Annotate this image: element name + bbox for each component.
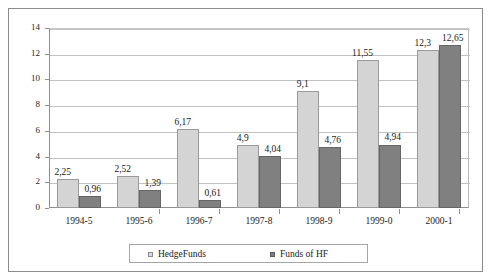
x-axis-tick-label-1998-9: 1998-9 <box>289 216 349 226</box>
x-axis-tick-label-2000-1: 2000-1 <box>409 216 469 226</box>
y-axis-tick-mark <box>45 28 49 29</box>
bar-value-label: 1,39 <box>144 178 161 188</box>
bar-1999-0-funds-of-hf <box>379 145 401 209</box>
bar-1998-9-hedgefunds <box>297 91 319 208</box>
bar-value-label: 4,04 <box>264 144 281 154</box>
x-axis-tick-label-1995-6: 1995-6 <box>109 216 169 226</box>
bar-1995-6-hedgefunds <box>117 176 139 208</box>
y-axis-tick-mark <box>45 208 49 209</box>
bar-value-label: 0,61 <box>204 188 221 198</box>
bar-1997-8-hedgefunds <box>237 145 259 208</box>
y-axis-tick-label: 6 <box>4 126 40 135</box>
y-axis-tick-mark <box>45 54 49 55</box>
y-axis-tick-label: 12 <box>4 49 40 58</box>
bar-1996-7-hedgefunds <box>177 129 199 208</box>
x-axis-tick-mark <box>459 209 460 214</box>
y-axis-tick-label: 2 <box>4 177 40 186</box>
y-axis-tick-label: 4 <box>4 152 40 161</box>
y-axis-tick-mark <box>45 131 49 132</box>
gridline <box>50 29 470 30</box>
gridline <box>50 80 470 81</box>
bar-1995-6-funds-of-hf <box>139 190 161 208</box>
y-axis-tick-mark <box>45 157 49 158</box>
bar-value-label: 4,9 <box>237 133 249 143</box>
chart-figure: 02468101214 2,250,962,521,396,170,614,94… <box>0 0 497 279</box>
gridline <box>50 55 470 56</box>
y-axis-tick-label: 14 <box>4 23 40 32</box>
bar-value-label: 2,25 <box>54 167 71 177</box>
y-axis-tick-label: 0 <box>4 203 40 212</box>
legend-entry-funds-of-hf[interactable]: Funds of HF <box>270 248 328 261</box>
x-axis-tick-label-1997-8: 1997-8 <box>229 216 289 226</box>
bar-1998-9-funds-of-hf <box>319 147 341 208</box>
bar-value-label: 6,17 <box>174 117 191 127</box>
bar-2000-1-hedgefunds <box>417 50 439 208</box>
y-axis-tick-label: 8 <box>4 100 40 109</box>
y-axis-tick-label: 10 <box>4 74 40 83</box>
x-axis-tick-label-1999-0: 1999-0 <box>349 216 409 226</box>
legend-entry-hedgefunds[interactable]: HedgeFunds <box>148 248 206 261</box>
bar-value-label: 4,94 <box>384 132 401 142</box>
bar-value-label: 12,3 <box>414 38 431 48</box>
x-axis-tick-mark <box>219 209 220 214</box>
y-axis-tick-mark <box>45 79 49 80</box>
y-axis-tick-mark <box>45 182 49 183</box>
bar-1994-5-hedgefunds <box>57 179 79 208</box>
legend-label: Funds of HF <box>280 249 328 260</box>
bar-value-label: 12,65 <box>442 33 463 43</box>
bar-1997-8-funds-of-hf <box>259 156 281 208</box>
bar-2000-1-funds-of-hf <box>439 45 461 208</box>
bar-value-label: 0,96 <box>84 184 101 194</box>
bar-value-label: 11,55 <box>352 48 373 58</box>
legend-swatch-icon <box>270 252 275 257</box>
bar-value-label: 4,76 <box>324 135 341 145</box>
bar-1994-5-funds-of-hf <box>79 196 101 208</box>
x-axis-tick-mark <box>279 209 280 214</box>
x-axis-tick-mark <box>399 209 400 214</box>
bar-1999-0-hedgefunds <box>357 60 379 209</box>
x-axis-tick-label-1994-5: 1994-5 <box>49 216 109 226</box>
gridline <box>50 106 470 107</box>
legend-swatch-icon <box>148 252 153 257</box>
bar-1996-7-funds-of-hf <box>199 200 221 208</box>
chart-legend: HedgeFundsFunds of HF <box>129 244 368 263</box>
x-axis-tick-mark <box>159 209 160 214</box>
bar-value-label: 9,1 <box>297 79 309 89</box>
y-axis-tick-mark <box>45 105 49 106</box>
legend-label: HedgeFunds <box>158 249 206 260</box>
x-axis-tick-label-1996-7: 1996-7 <box>169 216 229 226</box>
bar-value-label: 2,52 <box>114 164 131 174</box>
x-axis-tick-mark <box>339 209 340 214</box>
gridline <box>50 132 470 133</box>
